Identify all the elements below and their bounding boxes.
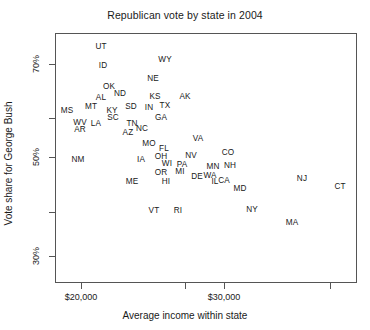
- data-point-mi: MI: [175, 168, 184, 176]
- x-axis-title: Average income within state: [0, 310, 370, 321]
- data-point-in: IN: [145, 104, 154, 112]
- data-point-tx: TX: [160, 102, 171, 110]
- data-point-vt: VT: [149, 207, 160, 215]
- x-axis-tick: [185, 283, 186, 289]
- data-point-mo: MO: [142, 140, 156, 148]
- data-point-nj: NJ: [297, 175, 307, 183]
- scatter-chart: Republican vote by state in 2004 Vote sh…: [0, 0, 370, 330]
- data-points-layer: UTIDWYNEOKNDALKSAKTXMTSDINKYMSSCGALATNNC…: [56, 34, 356, 282]
- y-axis-tick: [49, 118, 55, 119]
- data-point-la: LA: [91, 120, 101, 128]
- data-point-ms: MS: [61, 107, 74, 115]
- y-axis-tick-label: 70%: [31, 55, 41, 73]
- data-point-sc: SC: [107, 114, 119, 122]
- data-point-mt: MT: [85, 103, 97, 111]
- data-point-ri: RI: [174, 207, 183, 215]
- data-point-nh: NH: [224, 162, 236, 170]
- x-axis-tick-label: $30,000: [208, 292, 241, 302]
- y-axis-tick: [49, 256, 55, 257]
- data-point-ca: CA: [218, 177, 230, 185]
- data-point-de: DE: [191, 173, 203, 181]
- data-point-ia: IA: [137, 156, 145, 164]
- plot-area: UTIDWYNEOKNDALKSAKTXMTSDINKYMSSCGALATNNC…: [55, 33, 357, 283]
- y-axis-title: Vote share for George Bush: [3, 102, 14, 226]
- data-point-ga: GA: [155, 114, 167, 122]
- data-point-nc: NC: [136, 125, 148, 133]
- data-point-ar: AR: [74, 126, 86, 134]
- data-point-id: ID: [99, 62, 108, 70]
- x-axis-tick-label: $20,000: [65, 292, 98, 302]
- data-point-wi: WI: [162, 160, 172, 168]
- data-point-nv: NV: [185, 152, 197, 160]
- x-axis-tick: [81, 283, 82, 289]
- data-point-co: CO: [222, 149, 235, 157]
- y-axis-tick: [49, 212, 55, 213]
- x-axis-tick: [224, 283, 225, 289]
- data-point-ks: KS: [149, 93, 160, 101]
- data-point-or: OR: [155, 169, 168, 177]
- data-point-sd: SD: [125, 103, 137, 111]
- data-point-ak: AK: [179, 93, 190, 101]
- data-point-nm: NM: [71, 156, 84, 164]
- data-point-nd: ND: [114, 90, 126, 98]
- data-point-me: ME: [126, 178, 139, 186]
- data-point-hi: HI: [162, 178, 171, 186]
- data-point-va: VA: [193, 135, 204, 143]
- y-axis-tick: [49, 64, 55, 65]
- y-axis-tick: [49, 157, 55, 158]
- y-axis-tick-label: 50%: [31, 148, 41, 166]
- data-point-ut: UT: [95, 43, 106, 51]
- data-point-ne: NE: [147, 75, 159, 83]
- data-point-mn: MN: [206, 163, 219, 171]
- data-point-ct: CT: [334, 183, 345, 191]
- x-axis-tick: [330, 283, 331, 289]
- data-point-al: AL: [96, 94, 106, 102]
- data-point-ny: NY: [246, 206, 258, 214]
- data-point-ma: MA: [286, 219, 299, 227]
- data-point-md: MD: [233, 185, 246, 193]
- data-point-wy: WY: [158, 56, 172, 64]
- y-axis-tick-label: 30%: [31, 247, 41, 265]
- chart-title: Republican vote by state in 2004: [0, 9, 370, 21]
- data-point-az: AZ: [123, 129, 134, 137]
